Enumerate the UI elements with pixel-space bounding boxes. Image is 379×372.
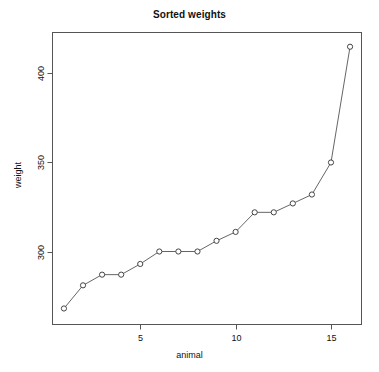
data-point-marker (347, 44, 352, 49)
x-tick-label: 10 (231, 333, 241, 343)
data-point-marker (214, 238, 219, 243)
data-point-marker (138, 261, 143, 266)
y-axis-label: weight (13, 145, 23, 205)
y-tick-label: 350 (36, 155, 46, 170)
data-point-marker (176, 249, 181, 254)
data-point-marker (328, 160, 333, 165)
data-point-marker (61, 306, 66, 311)
data-point-marker (252, 210, 257, 215)
data-point-markers (61, 44, 352, 311)
data-point-marker (271, 210, 276, 215)
plot-area: 51015 300350400 (0, 0, 379, 372)
y-tick-label: 300 (36, 245, 46, 260)
data-point-marker (80, 283, 85, 288)
x-tick-label: 5 (138, 333, 143, 343)
x-tick-label: 15 (326, 333, 336, 343)
series-polyline (64, 47, 350, 309)
plot-frame (53, 33, 362, 325)
x-axis-ticks: 51015 (138, 325, 337, 343)
y-axis-ticks: 300350400 (36, 66, 53, 260)
data-point-marker (157, 249, 162, 254)
data-point-marker (99, 272, 104, 277)
chart-container: Sorted weights 51015 300350400 weight an… (0, 0, 379, 372)
x-axis-label: animal (0, 350, 379, 360)
y-tick-label: 400 (36, 66, 46, 81)
data-point-marker (290, 201, 295, 206)
data-point-marker (195, 249, 200, 254)
data-point-marker (119, 272, 124, 277)
data-point-marker (233, 229, 238, 234)
data-series-line (64, 47, 350, 309)
data-point-marker (309, 192, 314, 197)
